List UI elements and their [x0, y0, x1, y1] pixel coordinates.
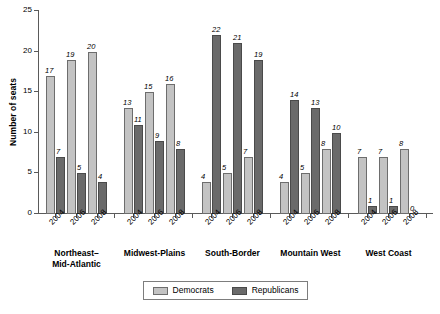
y-tick-label-25: 25	[10, 6, 32, 14]
bar-value-republicans: 4	[98, 173, 102, 181]
bar-value-republicans: 7	[56, 148, 60, 156]
legend-label-republicans: Republicans	[252, 286, 299, 295]
plot-area: 0510152025 17719520413111591684225217194…	[38, 10, 433, 214]
bar-value-republicans: 9	[155, 132, 159, 140]
bar-value-republicans: 1	[368, 197, 372, 205]
bar-value-republicans: 11	[134, 116, 142, 124]
bar-democrats[interactable]	[223, 173, 232, 214]
bar-republicans[interactable]	[311, 108, 320, 214]
y-axis-line	[38, 10, 39, 214]
bar-democrats[interactable]	[400, 149, 409, 214]
x-group-boundary-tick	[348, 214, 349, 218]
bar-value-democrats: 8	[321, 140, 325, 148]
y-tick-mark-25	[34, 10, 38, 11]
legend-label-democrats: Democrats	[173, 286, 214, 295]
bar-republicans[interactable]	[290, 100, 299, 214]
bar-republicans[interactable]	[176, 149, 185, 214]
bar-republicans[interactable]	[134, 125, 143, 214]
bar-value-republicans: 5	[77, 164, 81, 172]
y-tick-label-20: 20	[10, 47, 32, 55]
bar-democrats[interactable]	[88, 52, 97, 214]
bar-value-democrats: 8	[399, 140, 403, 148]
y-axis-title: Number of seats	[8, 52, 18, 172]
bar-democrats[interactable]	[67, 60, 76, 214]
bar-value-democrats: 5	[300, 164, 304, 172]
bar-democrats[interactable]	[46, 76, 55, 214]
bar-democrats[interactable]	[124, 108, 133, 214]
bar-value-republicans: 21	[233, 34, 241, 42]
bar-republicans[interactable]	[254, 60, 263, 214]
y-tick-mark-20	[34, 51, 38, 52]
legend-item-democrats[interactable]: Democrats	[153, 286, 214, 295]
bar-democrats[interactable]	[202, 182, 211, 214]
x-group-boundary-tick	[426, 214, 427, 218]
bar-democrats[interactable]	[301, 173, 310, 214]
y-tick-label-15: 15	[10, 87, 32, 95]
bar-value-republicans: 22	[212, 26, 220, 34]
bar-value-republicans: 19	[254, 51, 262, 59]
group-caption: South-Border	[188, 248, 278, 259]
y-tick-label-5: 5	[10, 168, 32, 176]
bar-democrats[interactable]	[322, 149, 331, 214]
bar-value-republicans: 1	[389, 197, 393, 205]
bar-value-democrats: 7	[243, 148, 247, 156]
bar-value-democrats: 7	[357, 148, 361, 156]
grouped-bar-chart: Number of seats 0510152025 1771952041311…	[0, 0, 440, 314]
legend-item-republicans[interactable]: Republicans	[232, 286, 299, 295]
bar-value-democrats: 17	[45, 67, 53, 75]
bar-value-democrats: 7	[378, 148, 382, 156]
y-tick-mark-15	[34, 91, 38, 92]
bar-value-republicans: 8	[176, 140, 180, 148]
bar-value-democrats: 4	[201, 173, 205, 181]
legend-swatch-republicans	[232, 287, 247, 295]
bar-value-democrats: 20	[87, 43, 95, 51]
y-tick-mark-0	[34, 213, 38, 214]
bar-value-democrats: 5	[222, 164, 226, 172]
bar-value-democrats: 15	[144, 83, 152, 91]
bar-value-republicans: 10	[332, 124, 340, 132]
bar-republicans[interactable]	[155, 141, 164, 214]
bar-democrats[interactable]	[280, 182, 289, 214]
chart-legend: Democrats Republicans	[143, 281, 308, 300]
bar-value-republicans: 13	[311, 99, 319, 107]
group-caption: Mountain West	[266, 248, 356, 259]
y-tick-label-10: 10	[10, 128, 32, 136]
y-tick-mark-5	[34, 172, 38, 173]
group-caption: Midwest-Plains	[110, 248, 200, 259]
y-tick-label-0: 0	[10, 209, 32, 217]
bar-republicans[interactable]	[233, 43, 242, 214]
bar-democrats[interactable]	[145, 92, 154, 214]
group-caption: Northeast– Mid-Atlantic	[32, 248, 122, 270]
bar-value-democrats: 13	[123, 99, 131, 107]
bar-democrats[interactable]	[166, 84, 175, 214]
bar-republicans[interactable]	[56, 157, 65, 214]
bar-democrats[interactable]	[358, 157, 367, 214]
x-group-boundary-tick	[270, 214, 271, 218]
bar-value-democrats: 16	[165, 75, 173, 83]
x-group-boundary-tick	[114, 214, 115, 218]
bar-republicans[interactable]	[332, 133, 341, 214]
bar-value-democrats: 4	[279, 173, 283, 181]
bar-democrats[interactable]	[379, 157, 388, 214]
bar-democrats[interactable]	[244, 157, 253, 214]
x-group-boundary-tick	[192, 214, 193, 218]
bar-value-democrats: 19	[66, 51, 74, 59]
bar-republicans[interactable]	[212, 35, 221, 214]
legend-swatch-democrats	[153, 287, 168, 295]
bar-value-republicans: 14	[290, 91, 298, 99]
group-caption: West Coast	[344, 248, 434, 259]
y-tick-mark-10	[34, 132, 38, 133]
